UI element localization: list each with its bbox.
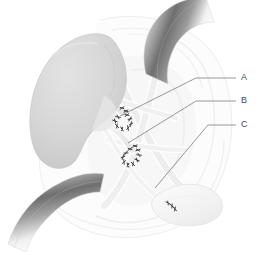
label-c: C bbox=[241, 119, 248, 129]
label-b: B bbox=[241, 95, 247, 105]
label-letters-layer: ABC bbox=[241, 72, 248, 129]
anatomical-diagram: ABC bbox=[0, 0, 261, 255]
illustration-canvas: ABC bbox=[0, 0, 261, 255]
label-a: A bbox=[241, 72, 247, 82]
